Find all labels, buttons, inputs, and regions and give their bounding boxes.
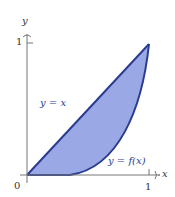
label-y-equals-x: y = x bbox=[40, 97, 66, 108]
plot bbox=[0, 0, 175, 197]
label-y-equals-fx: y = f(x) bbox=[108, 155, 146, 166]
y-axis-label: y bbox=[22, 15, 28, 26]
y-tick-label: 1 bbox=[16, 36, 22, 47]
x-axis-label: x bbox=[162, 168, 168, 179]
x-tick-label: 1 bbox=[145, 181, 151, 192]
origin-label: 0 bbox=[14, 180, 20, 191]
